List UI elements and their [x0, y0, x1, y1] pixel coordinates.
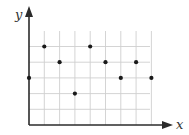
data-point [119, 76, 123, 80]
y-axis-arrow-icon [25, 6, 33, 17]
data-point [73, 92, 77, 96]
x-axis-label: x [176, 117, 184, 132]
y-axis-label: y [14, 7, 23, 22]
data-point [134, 60, 138, 64]
axes: y x [14, 6, 184, 132]
data-point [58, 60, 62, 64]
data-point [149, 76, 153, 80]
scatter-chart: y x [0, 0, 189, 135]
data-point [88, 44, 92, 48]
data-point [42, 44, 46, 48]
data-point [27, 76, 31, 80]
data-point [103, 60, 107, 64]
x-axis-arrow-icon [162, 121, 173, 129]
